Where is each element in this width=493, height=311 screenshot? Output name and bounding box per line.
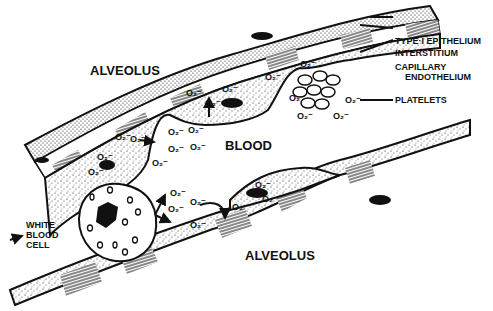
svg-text:O₂⁻: O₂⁻ bbox=[265, 72, 281, 82]
svg-text:O₂⁻: O₂⁻ bbox=[345, 95, 361, 105]
svg-text:O₂⁻: O₂⁻ bbox=[168, 127, 184, 137]
label-white: WHITE bbox=[26, 220, 55, 230]
white-blood-cell bbox=[79, 184, 156, 262]
svg-text:O₂⁻: O₂⁻ bbox=[97, 152, 113, 162]
svg-text:O₂⁻: O₂⁻ bbox=[130, 134, 146, 144]
svg-text:O₂⁻: O₂⁻ bbox=[222, 84, 238, 94]
svg-text:O₂⁻: O₂⁻ bbox=[168, 144, 184, 154]
diagram-canvas: O₂⁻ O₂⁻ O₂⁻ O₂⁻ O₂⁻ O₂⁻ O₂⁻ O₂⁻ O₂⁻ O₂⁻ … bbox=[0, 0, 493, 311]
label-type1-epithelium: TYPE·I EPITHELIUM bbox=[395, 36, 481, 46]
svg-text:O₂⁻: O₂⁻ bbox=[232, 202, 248, 212]
svg-text:O₂⁻: O₂⁻ bbox=[190, 197, 206, 207]
label-capillary: CAPILLARY bbox=[395, 62, 446, 72]
svg-text:O₂⁻: O₂⁻ bbox=[168, 204, 184, 214]
label-platelets: PLATELETS bbox=[395, 95, 447, 105]
svg-text:O₂⁻: O₂⁻ bbox=[205, 98, 221, 108]
svg-text:O₂⁻: O₂⁻ bbox=[333, 111, 349, 121]
svg-text:O₂⁻: O₂⁻ bbox=[186, 88, 202, 98]
svg-text:O₂⁻: O₂⁻ bbox=[262, 194, 278, 204]
svg-text:O₂⁻: O₂⁻ bbox=[297, 111, 313, 121]
label-endothelium: ENDOTHELIUM bbox=[405, 72, 471, 82]
svg-text:O₂⁻: O₂⁻ bbox=[152, 158, 168, 168]
svg-text:O₂⁻: O₂⁻ bbox=[190, 220, 206, 230]
label-alveolus-bottom: ALVEOLUS bbox=[245, 248, 315, 263]
svg-text:O₂⁻: O₂⁻ bbox=[289, 93, 305, 103]
svg-text:O₂⁻: O₂⁻ bbox=[88, 167, 104, 177]
label-alveolus-top: ALVEOLUS bbox=[90, 63, 160, 78]
svg-text:O₂⁻: O₂⁻ bbox=[300, 59, 316, 69]
alveolar-capillary-diagram: O₂⁻ O₂⁻ O₂⁻ O₂⁻ O₂⁻ O₂⁻ O₂⁻ O₂⁻ O₂⁻ O₂⁻ … bbox=[0, 0, 493, 311]
label-interstitium: INTERSTITIUM bbox=[395, 48, 458, 58]
svg-text:O₂⁻: O₂⁻ bbox=[190, 142, 206, 152]
svg-text:O₂⁻: O₂⁻ bbox=[170, 188, 186, 198]
svg-text:O₂⁻: O₂⁻ bbox=[115, 132, 131, 142]
svg-text:O₂⁻: O₂⁻ bbox=[188, 125, 204, 135]
platelets bbox=[293, 71, 340, 109]
label-blood-word: BLOOD bbox=[26, 230, 59, 240]
label-blood: BLOOD bbox=[225, 138, 272, 153]
label-cell: CELL bbox=[26, 240, 50, 250]
svg-text:O₂⁻: O₂⁻ bbox=[255, 180, 271, 190]
